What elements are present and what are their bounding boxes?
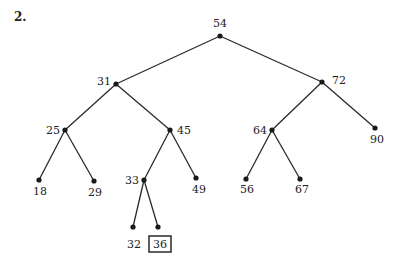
tree-node-18 xyxy=(36,177,41,182)
node-label-29: 29 xyxy=(88,186,102,199)
tree-edge xyxy=(39,130,65,180)
tree-node-64 xyxy=(269,127,274,132)
node-label-36: 36 xyxy=(153,238,167,251)
tree-node-49 xyxy=(193,175,198,180)
node-label-54: 54 xyxy=(213,17,227,30)
node-label-18: 18 xyxy=(33,185,47,198)
node-label-31: 31 xyxy=(97,75,111,88)
node-label-25: 25 xyxy=(46,124,60,137)
tree-node-32 xyxy=(130,224,135,229)
node-label-33: 33 xyxy=(125,174,139,187)
node-label-32: 32 xyxy=(127,238,141,251)
tree-node-45 xyxy=(167,127,172,132)
tree-nodes: 543172254564901829334956673236 xyxy=(33,17,384,252)
tree-edge xyxy=(133,180,144,227)
tree-edge xyxy=(116,36,220,84)
tree-edge xyxy=(144,130,170,180)
node-label-72: 72 xyxy=(332,74,346,87)
binary-search-tree: 543172254564901829334956673236 xyxy=(0,0,399,262)
tree-node-29 xyxy=(91,178,96,183)
tree-node-72 xyxy=(319,79,324,84)
tree-node-31 xyxy=(113,81,118,86)
node-label-49: 49 xyxy=(192,183,206,196)
node-label-64: 64 xyxy=(253,124,267,137)
tree-edge xyxy=(116,84,170,130)
tree-edge xyxy=(144,180,158,227)
node-label-67: 67 xyxy=(295,183,309,196)
tree-edge xyxy=(246,130,272,179)
node-label-56: 56 xyxy=(240,183,254,196)
tree-node-25 xyxy=(62,127,67,132)
tree-node-54 xyxy=(217,33,222,38)
tree-node-33 xyxy=(141,177,146,182)
tree-node-56 xyxy=(243,176,248,181)
tree-edge xyxy=(170,130,196,178)
tree-edge xyxy=(272,82,322,130)
tree-edge xyxy=(322,82,375,128)
tree-node-67 xyxy=(297,176,302,181)
tree-node-36 xyxy=(155,224,160,229)
tree-edge xyxy=(220,36,322,82)
node-label-90: 90 xyxy=(370,133,384,146)
tree-edge xyxy=(65,130,94,181)
node-label-45: 45 xyxy=(177,124,191,137)
tree-edge xyxy=(272,130,300,179)
tree-node-90 xyxy=(372,125,377,130)
tree-edge xyxy=(65,84,116,130)
